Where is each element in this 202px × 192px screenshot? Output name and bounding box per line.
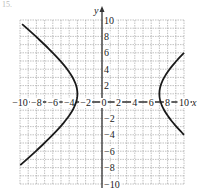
y-axis-label: y xyxy=(93,5,99,16)
x-tick-label: −6 xyxy=(47,97,58,108)
y-tick-label: −6 xyxy=(104,146,115,157)
x-tick-label: 8 xyxy=(165,97,170,108)
x-tick-label: 4 xyxy=(132,97,137,108)
y-tick-label: 6 xyxy=(104,47,109,58)
y-tick-label: −8 xyxy=(104,162,115,173)
x-tick-label: −2 xyxy=(80,97,91,108)
y-tick-label: −2 xyxy=(104,113,115,124)
x-tick-label: 10 xyxy=(179,97,189,108)
y-tick-label: −10 xyxy=(104,179,120,190)
y-tick-label: 8 xyxy=(104,31,109,42)
left-branch xyxy=(20,24,77,165)
x-tick-label: −10 xyxy=(12,97,28,108)
x-axis-label: x xyxy=(191,97,197,108)
x-tick-label: 2 xyxy=(116,97,121,108)
x-tick-label: 6 xyxy=(149,97,154,108)
y-tick-label: 2 xyxy=(104,80,109,91)
hyperbola-graph: yx −10−8−6−4−20246810−10−8−6−4−2246810 xyxy=(0,0,202,192)
x-tick-label: −8 xyxy=(31,97,42,108)
y-tick-label: −4 xyxy=(104,129,115,140)
x-tick-label: −4 xyxy=(64,97,75,108)
y-axis-arrow-icon xyxy=(100,6,105,12)
y-tick-label: 4 xyxy=(104,64,109,75)
x-tick-label: 0 xyxy=(102,97,107,108)
y-tick-label: 10 xyxy=(104,15,114,26)
